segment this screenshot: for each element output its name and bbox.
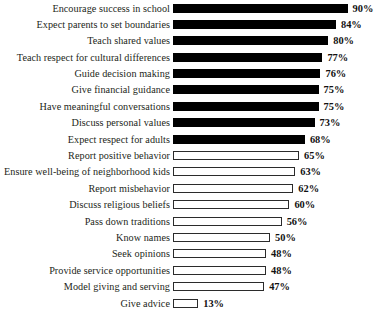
value-label: 62% <box>298 183 319 194</box>
value-label: 76% <box>325 68 346 79</box>
value-label: 90% <box>353 3 374 14</box>
category-label: Seek opinions <box>0 248 170 259</box>
bar <box>173 135 305 144</box>
value-label: 48% <box>271 265 292 276</box>
category-label: Ensure well-being of neighborhood kids <box>0 166 170 177</box>
chart-row: Ensure well-being of neighborhood kids63… <box>0 164 385 180</box>
bar <box>173 299 198 308</box>
category-label: Have meaningful conversations <box>0 101 170 112</box>
value-label: 65% <box>304 150 325 161</box>
chart-row: Give advice13% <box>0 295 385 311</box>
chart-row: Encourage success in school90% <box>0 0 385 16</box>
chart-row: Report misbehavior62% <box>0 180 385 196</box>
chart-row: Guide decision making76% <box>0 65 385 81</box>
chart-row: Discuss personal values73% <box>0 115 385 131</box>
chart-row: Teach respect for cultural differences77… <box>0 49 385 65</box>
bar <box>173 85 319 94</box>
bar <box>173 217 282 226</box>
value-label: 50% <box>275 232 296 243</box>
category-label: Discuss religious beliefs <box>0 199 170 210</box>
value-label: 84% <box>341 19 362 30</box>
value-label: 13% <box>203 298 224 309</box>
chart-row: Give financial guidance75% <box>0 82 385 98</box>
bar <box>173 249 266 258</box>
bar <box>173 184 293 193</box>
bar <box>173 102 319 111</box>
category-label: Expect parents to set boundaries <box>0 19 170 30</box>
bar <box>173 151 299 160</box>
bar <box>173 118 315 127</box>
category-label: Report misbehavior <box>0 183 170 194</box>
chart-row: Discuss religious beliefs60% <box>0 197 385 213</box>
bar <box>173 233 270 242</box>
value-label: 47% <box>269 281 290 292</box>
chart-row: Know names50% <box>0 229 385 245</box>
value-label: 77% <box>327 52 348 63</box>
value-label: 60% <box>294 199 315 210</box>
bar <box>173 4 348 13</box>
bar <box>173 20 336 29</box>
category-label: Guide decision making <box>0 68 170 79</box>
category-label: Give financial guidance <box>0 84 170 95</box>
bar <box>173 167 295 176</box>
chart-row: Have meaningful conversations75% <box>0 98 385 114</box>
chart-row: Seek opinions48% <box>0 246 385 262</box>
chart-row: Report positive behavior65% <box>0 147 385 163</box>
horizontal-bar-chart: Encourage success in school90%Expect par… <box>0 0 385 311</box>
category-label: Encourage success in school <box>0 3 170 14</box>
value-label: 63% <box>300 166 321 177</box>
bar <box>173 282 264 291</box>
bar <box>173 53 322 62</box>
category-label: Give advice <box>0 298 170 309</box>
value-label: 68% <box>310 134 331 145</box>
chart-row: Pass down traditions56% <box>0 213 385 229</box>
value-label: 80% <box>333 35 354 46</box>
category-label: Teach respect for cultural differences <box>0 52 170 63</box>
bar <box>173 200 289 209</box>
category-label: Know names <box>0 232 170 243</box>
chart-row: Expect parents to set boundaries84% <box>0 16 385 32</box>
bar <box>173 36 328 45</box>
chart-row: Teach shared values80% <box>0 33 385 49</box>
value-label: 56% <box>287 216 308 227</box>
chart-row: Provide service opportunities48% <box>0 262 385 278</box>
category-label: Expect respect for adults <box>0 134 170 145</box>
value-label: 73% <box>320 117 341 128</box>
bar <box>173 69 320 78</box>
category-label: Model giving and serving <box>0 281 170 292</box>
value-label: 48% <box>271 248 292 259</box>
category-label: Discuss personal values <box>0 117 170 128</box>
category-label: Report positive behavior <box>0 150 170 161</box>
bar <box>173 266 266 275</box>
chart-row: Model giving and serving47% <box>0 279 385 295</box>
category-label: Teach shared values <box>0 35 170 46</box>
category-label: Pass down traditions <box>0 216 170 227</box>
category-label: Provide service opportunities <box>0 265 170 276</box>
chart-row: Expect respect for adults68% <box>0 131 385 147</box>
value-label: 75% <box>324 101 345 112</box>
value-label: 75% <box>324 84 345 95</box>
